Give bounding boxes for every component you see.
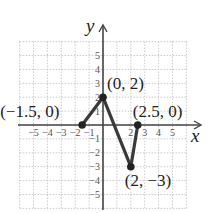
y-axis-label: y — [84, 15, 95, 36]
data-point — [134, 121, 142, 129]
y-tick-label: −3 — [89, 161, 100, 172]
coordinate-plane-chart: −5−4−3−2−1234554321−1−2−3−4−5 (−1.5, 0)(… — [0, 0, 216, 213]
x-tick-label: 4 — [156, 127, 161, 138]
y-tick-label: 5 — [95, 50, 100, 61]
data-point — [99, 93, 107, 101]
point-label: (−1.5, 0) — [0, 102, 59, 121]
x-axis-label: x — [190, 125, 200, 146]
data-point — [78, 121, 86, 129]
y-tick-label: −1 — [89, 133, 100, 144]
x-tick-label: −4 — [42, 127, 53, 138]
y-tick-label: 4 — [95, 64, 100, 75]
x-tick-label: 2 — [128, 127, 133, 138]
data-point — [127, 163, 135, 171]
y-tick-label: 3 — [95, 78, 100, 89]
x-tick-label: −2 — [70, 127, 81, 138]
y-tick-label: −5 — [89, 189, 100, 200]
point-label: (0, 2) — [107, 74, 144, 93]
point-label: (2.5, 0) — [133, 102, 183, 121]
y-tick-label: −4 — [89, 175, 100, 186]
x-tick-label: 5 — [170, 127, 175, 138]
x-tick-label: 3 — [142, 127, 147, 138]
point-label: (2, −3) — [125, 171, 171, 190]
x-tick-label: −5 — [28, 127, 39, 138]
y-tick-label: −2 — [89, 147, 100, 158]
x-tick-label: −3 — [56, 127, 67, 138]
